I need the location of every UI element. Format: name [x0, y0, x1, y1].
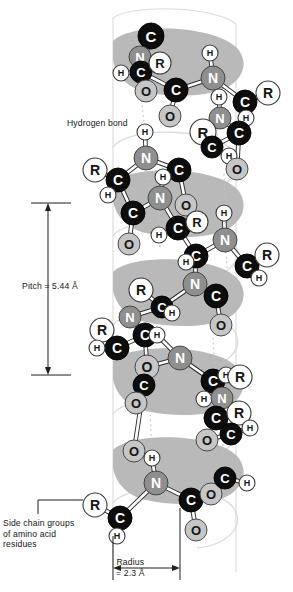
- atom-label-oxygen: O: [141, 84, 151, 99]
- atom-label-oxygen: O: [129, 444, 139, 459]
- atom-hydrogen: H: [251, 270, 267, 286]
- atom-nitrogen: N: [168, 346, 192, 370]
- atom-carbon: C: [108, 506, 132, 530]
- atom-oxygen: O: [210, 314, 232, 336]
- atom-nitrogen: N: [183, 272, 207, 296]
- atom-label-carbon: C: [211, 288, 221, 304]
- atom-label-nitrogen: N: [217, 391, 226, 406]
- atom-hydrogen: H: [149, 327, 165, 343]
- atom-sidechain-r: R: [83, 158, 107, 182]
- atom-carbon: C: [227, 121, 251, 145]
- atom-label-carbon: C: [171, 82, 181, 98]
- atom-label-hydrogen: H: [207, 48, 214, 58]
- atom-label-carbon: C: [139, 378, 149, 393]
- atom-label-hydrogen: H: [154, 330, 161, 340]
- atom-label-hydrogen: H: [244, 478, 251, 488]
- side-chain-leader-line: [38, 500, 83, 514]
- atom-hydrogen: H: [178, 254, 194, 270]
- side-chain-label-line3: residues: [3, 539, 37, 549]
- atom-sidechain-r: R: [186, 211, 208, 233]
- atom-label-carbon: C: [128, 205, 138, 221]
- atom-label-sidechain-r: R: [90, 162, 100, 178]
- atom-label-carbon: C: [136, 65, 146, 80]
- atom-carbon: C: [138, 23, 164, 49]
- alpha-helix-diagram: CNCRHOCONHHCRHNCRCHONHCRHCHNCOCRHONHCHCR…: [0, 0, 293, 592]
- atom-carbon: C: [220, 423, 242, 445]
- atom-label-carbon: C: [112, 340, 122, 356]
- atom-label-nitrogen: N: [141, 150, 151, 166]
- atom-sidechain-r: R: [255, 243, 279, 267]
- atom-sidechain-r: R: [149, 52, 171, 74]
- atom-nitrogen: N: [148, 186, 172, 210]
- atom-label-sidechain-r: R: [155, 56, 165, 71]
- atom-hydrogen: H: [196, 391, 212, 407]
- atom-oxygen: O: [226, 158, 248, 180]
- side-chain-label-line2: of amino acid: [3, 529, 56, 539]
- atom-label-carbon: C: [207, 140, 217, 155]
- atom-nitrogen: N: [201, 66, 225, 90]
- atom-hydrogen: H: [155, 169, 171, 185]
- atom-oxygen: O: [123, 440, 145, 462]
- atom-nitrogen: N: [213, 228, 237, 252]
- atom-label-oxygen: O: [165, 109, 175, 124]
- atom-hydrogen: H: [164, 305, 180, 321]
- radius-label-line1: Radius: [116, 557, 144, 567]
- atom-label-carbon: C: [186, 492, 196, 508]
- atom-label-oxygen: O: [202, 433, 212, 448]
- atom-oxygen: O: [135, 80, 157, 102]
- atom-label-carbon: C: [240, 94, 250, 110]
- atom-label-carbon: C: [226, 427, 236, 442]
- atom-label-oxygen: O: [191, 523, 201, 538]
- pitch-label: Pitch = 5.44 Å: [22, 281, 78, 292]
- atom-hydrogen: H: [113, 65, 129, 81]
- atom-hydrogen: H: [89, 340, 105, 356]
- atom-label-nitrogen: N: [208, 70, 218, 86]
- atom-sidechain-r: R: [83, 493, 107, 517]
- hydrogen-bond-label: Hydrogen bond: [67, 118, 128, 129]
- side-chain-label: Side chain groups of amino acid residues: [3, 518, 95, 550]
- atom-label-carbon: C: [146, 28, 157, 45]
- atom-label-hydrogen: H: [114, 531, 121, 541]
- atom-label-hydrogen: H: [256, 273, 263, 283]
- atom-label-hydrogen: H: [105, 190, 112, 200]
- radius-label: Radius = 2.3 Å: [116, 557, 145, 578]
- atom-label-nitrogen: N: [215, 111, 224, 126]
- atom-label-carbon: C: [113, 172, 123, 188]
- atom-label-sidechain-r: R: [262, 247, 272, 263]
- radius-label-line2: = 2.3 Å: [116, 568, 145, 579]
- atom-label-nitrogen: N: [155, 190, 165, 206]
- atom-oxygen: O: [125, 392, 147, 414]
- atom-hydrogen: H: [239, 475, 255, 491]
- atom-label-sidechain-r: R: [97, 322, 107, 338]
- atom-label-hydrogen: H: [94, 343, 101, 353]
- atom-hydrogen: H: [144, 450, 160, 466]
- atom-label-sidechain-r: R: [263, 85, 273, 101]
- atom-label-hydrogen: H: [247, 423, 254, 433]
- atom-oxygen: O: [159, 105, 181, 127]
- atom-hydrogen: H: [216, 205, 232, 221]
- atom-nitrogen: N: [134, 146, 158, 170]
- atom-oxygen: O: [118, 233, 140, 255]
- atom-label-hydrogen: H: [142, 127, 149, 137]
- atom-label-nitrogen: N: [190, 276, 200, 292]
- atom-label-nitrogen: N: [175, 350, 185, 366]
- atom-label-carbon: C: [208, 373, 218, 389]
- atom-sidechain-r: R: [228, 365, 252, 389]
- atom-label-nitrogen: N: [151, 475, 161, 491]
- atom-hydrogen: H: [109, 528, 125, 544]
- atom-label-carbon: C: [242, 258, 252, 274]
- atom-carbon: C: [179, 488, 203, 512]
- atom-hydrogen: H: [211, 89, 227, 105]
- atom-label-hydrogen: H: [160, 172, 167, 182]
- atom-sidechain-r: R: [256, 81, 280, 105]
- figure-canvas: CNCRHOCONHHCRHNCRCHONHCRHCHNCOCRHONHCHCR…: [0, 0, 293, 592]
- atom-label-hydrogen: H: [149, 453, 156, 463]
- atom-label-sidechain-r: R: [235, 369, 245, 385]
- atom-label-oxygen: O: [181, 198, 191, 213]
- atom-oxygen: O: [185, 519, 207, 541]
- atom-carbon: C: [201, 136, 223, 158]
- atom-label-hydrogen: H: [216, 92, 223, 102]
- atom-label-hydrogen: H: [156, 230, 163, 240]
- atom-hydrogen: H: [242, 420, 258, 436]
- atom-nitrogen: N: [144, 471, 168, 495]
